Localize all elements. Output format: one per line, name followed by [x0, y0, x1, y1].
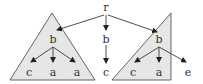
edge-root-to-left-b — [57, 15, 104, 30]
node-left-a1: a — [50, 66, 57, 79]
node-left-c: c — [26, 66, 32, 79]
node-left-b: b — [49, 33, 56, 46]
node-middle-c: c — [103, 66, 109, 79]
node-right-c: c — [130, 66, 136, 79]
node-root: r — [103, 1, 109, 14]
node-middle-b: b — [102, 33, 109, 46]
node-right-a: a — [156, 66, 163, 79]
node-left-a2: a — [74, 66, 81, 79]
tree-diagram: r b c a a b c b c a e — [0, 0, 203, 84]
node-right-e: e — [185, 66, 192, 79]
node-right-b: b — [155, 33, 162, 46]
edge-root-to-right-b — [108, 15, 157, 32]
